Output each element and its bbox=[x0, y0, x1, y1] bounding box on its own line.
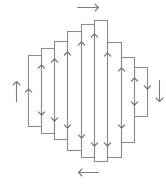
outer-flow-arrows bbox=[13, 4, 163, 176]
column-band-4 bbox=[68, 32, 82, 151]
column-path-diagram bbox=[0, 0, 166, 187]
column-bands bbox=[29, 21, 148, 162]
column-band-3 bbox=[55, 42, 68, 140]
direction-arrows bbox=[25, 34, 150, 146]
column-band-9 bbox=[135, 68, 148, 117]
right-arrow-down-icon bbox=[156, 81, 163, 102]
column-band-6 bbox=[95, 21, 108, 162]
top-arrow-right-icon bbox=[78, 4, 99, 11]
left-arrow-up-icon bbox=[13, 82, 20, 102]
column-band-7 bbox=[108, 43, 122, 158]
bottom-arrow-left-icon bbox=[79, 169, 99, 176]
